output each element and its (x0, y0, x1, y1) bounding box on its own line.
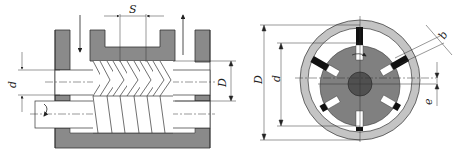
vane-pump-figure: D d b e (252, 16, 452, 142)
label-e: e (422, 98, 435, 105)
label-b: b (436, 29, 451, 42)
label-D-left: D (216, 78, 229, 88)
label-d-left: d (6, 81, 19, 88)
label-d-right: d (270, 75, 283, 82)
screw-pump-figure: S d D (6, 3, 236, 148)
diagram-canvas: S d D (0, 0, 454, 159)
label-D-right: D (252, 75, 265, 85)
screw-threads (93, 61, 173, 133)
label-s: S (129, 3, 137, 16)
